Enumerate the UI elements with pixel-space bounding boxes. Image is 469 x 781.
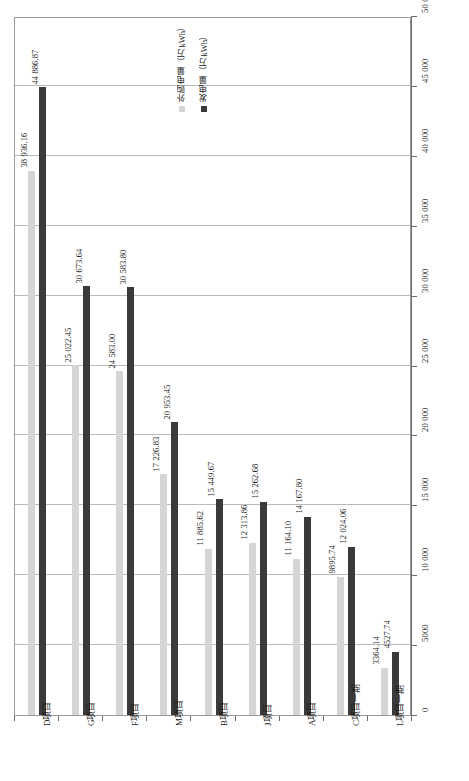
gridline-40000	[15, 155, 410, 156]
category-label-3: M项目	[172, 700, 185, 726]
bar-value-label: 11 164.10	[284, 521, 293, 556]
gridline-35000	[15, 225, 410, 226]
value-tick-10000	[411, 575, 417, 576]
category-label-2: F项目	[128, 703, 141, 726]
value-tick-5000	[411, 645, 417, 646]
category-label-4: B项目	[217, 702, 230, 726]
legend-swatch-icon-0	[179, 106, 185, 112]
category-label-7: C项目一期	[349, 684, 362, 726]
category-tick-3	[190, 716, 191, 721]
bar-F项目-series0[interactable]: 24 583.00	[116, 371, 123, 715]
value-tick-50000	[411, 16, 417, 17]
value-tick-label-25000: 25 000	[420, 338, 430, 363]
value-tick-label-40000: 40 000	[420, 128, 430, 153]
value-axis: 0500010 00015 00020 00025 00030 00035 00…	[411, 17, 469, 716]
value-tick-35000	[411, 226, 417, 227]
bar-value-label: 11 885.62	[196, 511, 205, 546]
bar-A项目-series1[interactable]: 14 167.80	[304, 517, 311, 715]
bar-J项目-series0[interactable]: 12 313.86	[249, 543, 256, 715]
legend-item-0[interactable]: 外购电量（万kWh）	[176, 22, 188, 112]
bar-M项目-series1[interactable]: 20 953.45	[171, 422, 178, 715]
bar-F项目-series1[interactable]: 30 583.80	[127, 287, 134, 715]
bar-value-label: 12 024.06	[339, 509, 348, 544]
bar-B项目-series0[interactable]: 11 885.62	[205, 549, 212, 715]
bar-value-label: 17 226.83	[151, 436, 160, 471]
value-tick-label-45000: 45 000	[420, 58, 430, 83]
bar-C项目一期-series0[interactable]: 9895.74	[337, 577, 344, 715]
bar-value-label: 38 936.16	[19, 133, 28, 168]
category-axis: D项目G项目F项目M项目B项目J项目A项目C项目一期L项目一期	[14, 716, 411, 781]
value-tick-40000	[411, 156, 417, 157]
value-tick-label-0: 0	[420, 708, 430, 712]
bar-value-label: 30 673.64	[74, 248, 83, 283]
bar-M项目-series0[interactable]: 17 226.83	[160, 474, 167, 715]
category-label-5: J项目	[261, 704, 274, 726]
bar-value-label: 25 022.45	[63, 327, 72, 362]
category-tick-2	[146, 716, 147, 721]
category-tick-5	[279, 716, 280, 721]
category-tick-1	[102, 716, 103, 721]
category-label-0: D项目	[40, 702, 53, 727]
bar-value-label: 30 583.80	[118, 250, 127, 285]
bar-B项目-series1[interactable]: 15 449.67	[216, 499, 223, 715]
category-tick-4	[235, 716, 236, 721]
category-tick-6	[323, 716, 324, 721]
category-tick-8	[411, 716, 412, 721]
bar-value-label: 44 886.87	[30, 50, 39, 85]
legend-item-1[interactable]: 发电量（万kWh）	[198, 22, 210, 112]
gridline-45000	[15, 85, 410, 86]
value-tick-20000	[411, 435, 417, 436]
bar-J项目-series1[interactable]: 15 262.68	[260, 502, 267, 715]
bar-value-label: 9895.74	[328, 545, 337, 573]
gridline-30000	[15, 295, 410, 296]
value-tick-label-20000: 20 000	[420, 408, 430, 433]
bar-value-label: 24 583.00	[107, 333, 116, 368]
bar-value-label: 12 313.86	[240, 505, 249, 540]
bar-value-label: 14 167.80	[295, 479, 304, 514]
bar-D项目-series1[interactable]: 44 886.87	[39, 87, 46, 715]
bar-G项目-series0[interactable]: 25 022.45	[72, 365, 79, 715]
legend-label-1: 发电量（万kWh）	[198, 31, 210, 102]
value-tick-25000	[411, 366, 417, 367]
chart-canvas: 38 936.1644 886.8725 022.4530 673.6424 5…	[0, 0, 469, 781]
bar-value-label: 20 953.45	[162, 384, 171, 419]
value-tick-label-10000: 10 000	[420, 548, 430, 573]
value-tick-label-30000: 30 000	[420, 268, 430, 293]
value-tick-30000	[411, 296, 417, 297]
value-tick-label-35000: 35 000	[420, 198, 430, 223]
category-tick-start	[14, 716, 15, 721]
bar-L项目一期-series0[interactable]: 3364.14	[381, 668, 388, 715]
category-label-8: L项目一期	[393, 685, 406, 727]
legend-label-0: 外购电量（万kWh）	[176, 22, 188, 102]
bar-value-label: 3364.14	[372, 637, 381, 665]
category-label-1: G项目	[84, 702, 97, 727]
value-axis-line	[411, 17, 412, 716]
category-label-6: A项目	[305, 702, 318, 727]
value-tick-45000	[411, 86, 417, 87]
bar-A项目-series0[interactable]: 11 164.10	[293, 559, 300, 715]
bar-value-label: 4527.74	[383, 620, 392, 648]
bar-D项目-series0[interactable]: 38 936.16	[28, 171, 35, 715]
category-tick-7	[367, 716, 368, 721]
chart-legend: 外购电量（万kWh） 发电量（万kWh）	[176, 22, 210, 112]
value-tick-label-5000: 5000	[420, 624, 430, 642]
plot-area: 38 936.1644 886.8725 022.4530 673.6424 5…	[14, 17, 411, 716]
value-tick-label-15000: 15 000	[420, 478, 430, 503]
category-tick-0	[58, 716, 59, 721]
value-tick-15000	[411, 505, 417, 506]
bar-G项目-series1[interactable]: 30 673.64	[83, 286, 90, 715]
legend-swatch-icon-1	[201, 106, 207, 112]
bar-value-label: 15 262.68	[251, 464, 260, 499]
value-tick-label-50000: 50 000	[420, 0, 430, 13]
bar-value-label: 15 449.67	[207, 461, 216, 496]
